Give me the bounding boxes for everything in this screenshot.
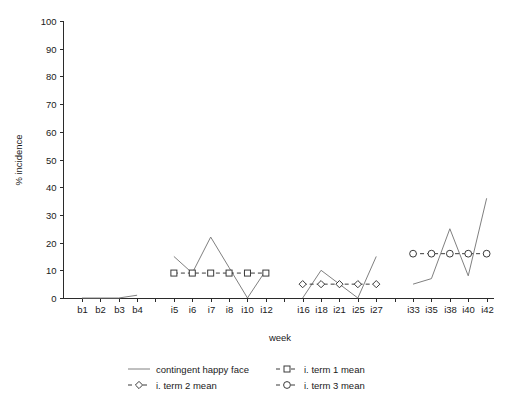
square-marker	[284, 366, 290, 372]
legend-entry-2: i. term 2 mean	[128, 380, 217, 391]
x-tick-label: i5	[171, 304, 178, 315]
x-tick-label: i33	[407, 304, 420, 315]
chart-container: 0102030405060708090100 b1b2b3b4i5i6i7i8i…	[0, 0, 510, 401]
circle-marker	[465, 250, 472, 257]
legend-label: contingent happy face	[156, 364, 249, 375]
x-tick-label: i25	[352, 304, 365, 315]
x-tick-label: i40	[462, 304, 475, 315]
series-line	[303, 256, 377, 298]
x-tick-label: i12	[260, 304, 273, 315]
chart-legend: contingent happy facei. term 1 meani. te…	[128, 364, 365, 391]
x-tick-label: b1	[77, 304, 88, 315]
square-marker	[263, 270, 269, 276]
y-axis-title: % incidence	[13, 134, 24, 185]
circle-marker	[483, 250, 490, 257]
series-line	[82, 295, 137, 298]
x-tick-label: i7	[208, 304, 215, 315]
diamond-marker	[354, 281, 361, 288]
square-marker	[208, 270, 214, 276]
y-tick-label: 30	[46, 210, 57, 221]
series-3	[410, 250, 490, 257]
legend-label: i. term 2 mean	[156, 380, 217, 391]
y-tick-label: 10	[46, 265, 57, 276]
y-tick-label: 20	[46, 238, 57, 249]
series-2	[299, 281, 380, 288]
legend-entry-3: i. term 3 mean	[276, 380, 365, 391]
y-tick-label: 60	[46, 127, 57, 138]
square-marker	[171, 270, 177, 276]
y-tick-label: 90	[46, 44, 57, 55]
circle-marker	[284, 382, 291, 389]
x-tick-label: i27	[370, 304, 383, 315]
y-tick-label: 0	[51, 293, 56, 304]
y-tick-label: 70	[46, 99, 57, 110]
x-tick-label: i38	[444, 304, 457, 315]
data-series-layer	[82, 198, 490, 298]
diamond-marker	[135, 381, 142, 388]
circle-marker	[410, 250, 417, 257]
y-tick-label: 100	[41, 16, 57, 27]
diamond-marker	[299, 281, 306, 288]
y-tick-label: 80	[46, 71, 57, 82]
legend-entry-1: i. term 1 mean	[276, 364, 365, 375]
x-tick-label: i18	[315, 304, 328, 315]
square-marker	[226, 270, 232, 276]
legend-label: i. term 3 mean	[304, 380, 365, 391]
x-tick-label: i35	[425, 304, 438, 315]
square-marker	[244, 270, 250, 276]
x-tick-label: i8	[226, 304, 233, 315]
square-marker	[189, 270, 195, 276]
diamond-marker	[317, 281, 324, 288]
x-tick-label: b2	[95, 304, 106, 315]
incidence-line-chart: 0102030405060708090100 b1b2b3b4i5i6i7i8i…	[0, 0, 510, 401]
x-tick-label: b3	[114, 304, 125, 315]
y-axis-ticks	[60, 22, 64, 299]
diamond-marker	[373, 281, 380, 288]
circle-marker	[428, 250, 435, 257]
series-0	[82, 198, 487, 298]
x-tick-label: b4	[132, 304, 143, 315]
series-line	[174, 237, 266, 298]
y-tick-label: 40	[46, 182, 57, 193]
series-line	[413, 198, 487, 284]
y-tick-label: 50	[46, 155, 57, 166]
legend-entry-0: contingent happy face	[128, 364, 249, 375]
x-axis-title: week	[268, 332, 291, 343]
circle-marker	[446, 250, 453, 257]
y-axis-tick-labels: 0102030405060708090100	[41, 16, 57, 304]
x-tick-label: i6	[189, 304, 196, 315]
x-tick-label: i10	[241, 304, 254, 315]
x-tick-label: i16	[297, 304, 310, 315]
x-tick-label: i21	[333, 304, 346, 315]
x-tick-label: i42	[481, 304, 494, 315]
x-axis-tick-labels: b1b2b3b4i5i6i7i8i10i12i16i18i21i25i27i33…	[77, 304, 494, 315]
legend-label: i. term 1 mean	[304, 364, 365, 375]
series-1	[171, 270, 269, 276]
